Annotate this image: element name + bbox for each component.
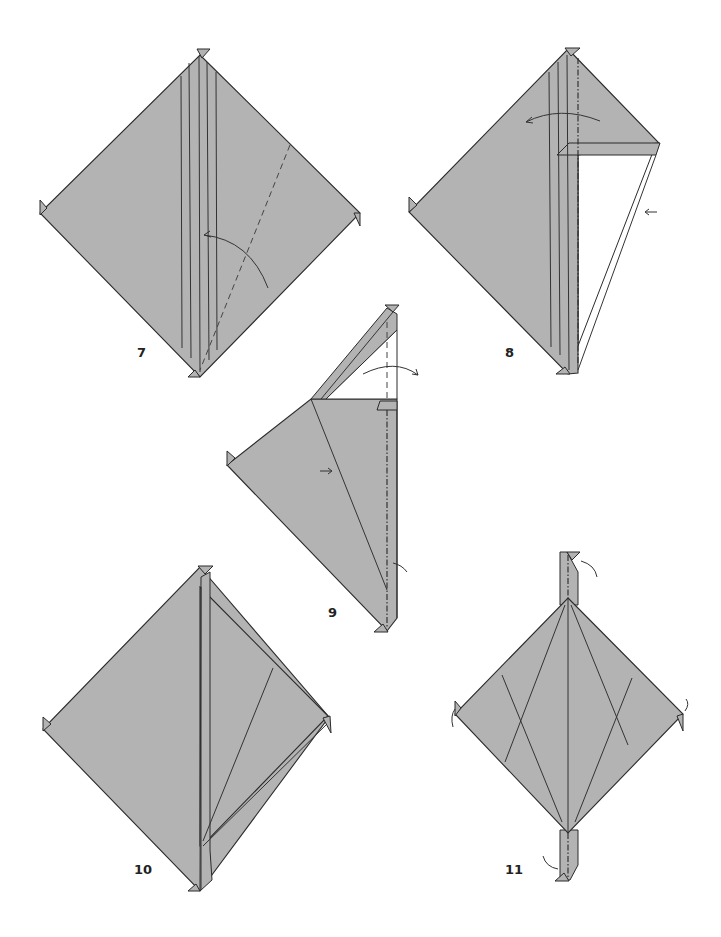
step-11-right-arrow-icon (685, 699, 688, 711)
step-11-bottom-strip (560, 830, 578, 880)
step-11-right-flap-icon (677, 714, 683, 731)
step-11-bottom-arrow-icon (543, 856, 558, 869)
step-11-top-strip (560, 552, 578, 605)
step-11-label: 11 (505, 862, 523, 877)
step-11-diagram (0, 0, 721, 937)
step-11-top-arrow-icon (581, 561, 597, 577)
diagram-page: 7 8 (0, 0, 721, 937)
step-11-diamond (455, 598, 683, 833)
